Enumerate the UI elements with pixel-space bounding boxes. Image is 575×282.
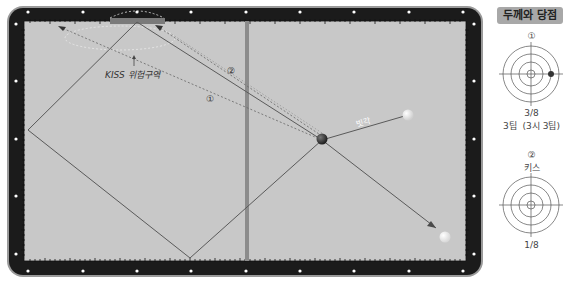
thickness-and-tip-panel: 두께와 당점 ① 3/8 3팁 (3시 3팁) ② 키스 1/8	[488, 0, 575, 282]
kiss-zone-cushion	[110, 18, 165, 24]
tip-detail: (3시 3팁)	[523, 121, 560, 131]
diagram-2-thickness: 1/8	[488, 240, 575, 250]
diagram-1-tip: 3팁 (3시 3팁)	[488, 119, 575, 132]
tip-value: 3팁	[503, 121, 517, 131]
billiard-table: KISS 위험구역 ① ② 빗각	[0, 0, 490, 282]
path-1-label: ①	[206, 94, 214, 104]
diagram-1-number: ①	[488, 31, 575, 41]
path-2-label: ②	[227, 66, 235, 76]
tip-point	[548, 71, 554, 77]
center-line	[245, 21, 249, 261]
panel-title: 두께와 당점	[497, 7, 563, 24]
tip-diagram-1	[499, 42, 563, 106]
red-ball	[317, 134, 328, 145]
kiss-zone-label: KISS 위험구역	[105, 68, 160, 81]
yellow-ball	[440, 232, 451, 243]
white-ball	[403, 110, 414, 121]
tip-diagram-2	[499, 173, 563, 237]
diagram-1-thickness: 3/8	[488, 108, 575, 118]
diagram-2-number: ②	[488, 150, 575, 160]
